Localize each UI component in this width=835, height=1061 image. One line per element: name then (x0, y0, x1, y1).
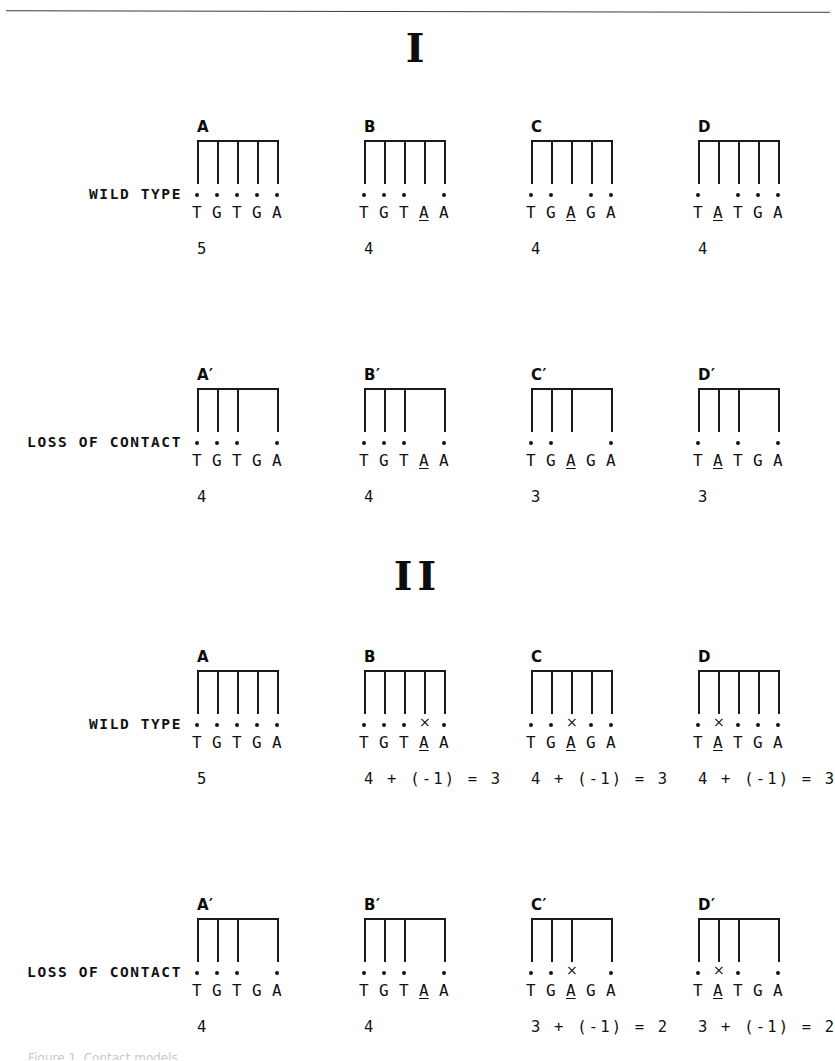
base: T (693, 734, 703, 752)
base: T (733, 204, 743, 222)
mutant-base: A (419, 734, 429, 752)
contact-dot-icon (736, 723, 740, 727)
contact-dot-icon (382, 723, 386, 727)
base: A (439, 204, 449, 222)
comb-tooth (364, 918, 366, 962)
base: G (252, 204, 262, 222)
base: A (439, 452, 449, 470)
base: G (379, 452, 389, 470)
contact-markers (364, 436, 470, 450)
dna-sequence: TGAGA (531, 982, 637, 1004)
comb-tooth (217, 918, 219, 962)
contact-comb (364, 388, 470, 434)
comb-tooth (611, 670, 613, 714)
contact-comb (531, 140, 637, 186)
contact-dot-icon (442, 441, 446, 445)
contact-dot-icon (756, 723, 760, 727)
comb-tooth (718, 670, 720, 714)
comb-tooth (444, 918, 446, 962)
base: T (359, 204, 369, 222)
comb-tooth (698, 140, 700, 184)
comb-tooth (531, 388, 533, 432)
comb-tooth (197, 670, 199, 714)
contact-markers (364, 966, 470, 980)
section-heading-II: II (0, 556, 835, 596)
panel-letter: A (197, 648, 209, 666)
contact-comb (364, 140, 470, 186)
base: T (526, 452, 536, 470)
comb-tooth (758, 140, 760, 184)
base: G (379, 982, 389, 1000)
comb-tooth (698, 918, 700, 962)
base: T (359, 452, 369, 470)
contact-dot-icon (589, 723, 593, 727)
comb-tooth (384, 140, 386, 184)
base: G (212, 452, 222, 470)
contact-comb (531, 670, 637, 716)
mutant-base: A (419, 452, 429, 470)
mismatch-cross-icon: × (419, 715, 431, 729)
base: A (272, 982, 282, 1000)
contact-dot-icon (402, 971, 406, 975)
comb-tooth (778, 670, 780, 714)
contact-markers (197, 188, 303, 202)
comb-tooth (531, 140, 533, 184)
base: G (252, 734, 262, 752)
base: T (526, 982, 536, 1000)
comb-tooth (424, 670, 426, 714)
contact-dot-icon (275, 723, 279, 727)
dna-sequence: TGTGA (197, 452, 303, 474)
contact-dot-icon (235, 971, 239, 975)
base: G (753, 982, 763, 1000)
contact-dot-icon (696, 971, 700, 975)
contact-markers: × (698, 718, 804, 732)
base: G (586, 204, 596, 222)
panel-score: 3 (698, 488, 710, 506)
panel-score: 5 (197, 770, 209, 788)
panel-letter: D′ (698, 896, 715, 914)
comb-tooth (571, 918, 573, 962)
contact-comb (531, 918, 637, 964)
contact-dot-icon (275, 971, 279, 975)
base: G (546, 204, 556, 222)
row-label-wild-type: WILD TYPE (6, 716, 182, 732)
mutant-base: A (566, 452, 576, 470)
base: T (733, 452, 743, 470)
comb-tooth (778, 918, 780, 962)
comb-tooth (277, 670, 279, 714)
dna-sequence: TGTAA (364, 982, 470, 1004)
contact-markers: × (531, 718, 637, 732)
contact-comb (197, 140, 303, 186)
base: A (773, 204, 783, 222)
comb-tooth (364, 140, 366, 184)
panel-score: 4 + (-1) = 3 (364, 770, 502, 788)
contact-dot-icon (402, 193, 406, 197)
comb-tooth (698, 670, 700, 714)
contact-dot-icon (736, 193, 740, 197)
comb-tooth (611, 388, 613, 432)
base: T (232, 452, 242, 470)
contact-dot-icon (402, 441, 406, 445)
comb-tooth (277, 918, 279, 962)
comb-tooth (237, 670, 239, 714)
panel-score: 4 + (-1) = 3 (698, 770, 835, 788)
base: T (693, 204, 703, 222)
contact-dot-icon (362, 723, 366, 727)
comb-tooth (738, 918, 740, 962)
base: G (753, 452, 763, 470)
panel-letter: C′ (531, 366, 547, 384)
base: T (359, 982, 369, 1000)
contact-dot-icon (195, 441, 199, 445)
contact-dot-icon (776, 441, 780, 445)
panel-letter: C′ (531, 896, 547, 914)
contact-dot-icon (195, 193, 199, 197)
panel-score: 3 + (-1) = 2 (698, 1018, 835, 1036)
contact-dot-icon (696, 723, 700, 727)
mismatch-cross-icon: × (566, 963, 578, 977)
comb-tooth (384, 388, 386, 432)
contact-dot-icon (382, 971, 386, 975)
comb-tooth (444, 388, 446, 432)
dna-sequence: TGTGA (197, 734, 303, 756)
comb-tooth (551, 670, 553, 714)
base: A (439, 982, 449, 1000)
